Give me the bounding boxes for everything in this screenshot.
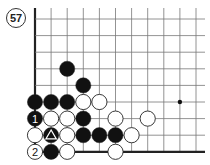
black-stone	[27, 94, 42, 109]
white-stone	[92, 94, 107, 109]
white-stone: 2	[27, 144, 42, 159]
black-stone	[44, 94, 59, 109]
move-number-label: 2	[32, 146, 38, 158]
white-stone	[60, 144, 75, 159]
white-stone	[60, 128, 75, 143]
black-stone	[44, 144, 59, 159]
white-stone	[27, 128, 42, 143]
white-stone	[124, 128, 139, 143]
go-board: 12	[0, 0, 210, 165]
black-stone	[92, 128, 107, 143]
white-stone	[140, 111, 155, 126]
white-stone	[76, 94, 91, 109]
white-stone	[44, 111, 59, 126]
black-stone	[76, 78, 91, 93]
black-stone: 1	[27, 111, 42, 126]
black-stone	[108, 128, 123, 143]
stones-layer: 12	[27, 61, 155, 159]
black-stone	[60, 94, 75, 109]
black-stone	[60, 61, 75, 76]
black-stone	[76, 111, 91, 126]
move-number-label: 1	[32, 113, 38, 125]
white-stone	[60, 111, 75, 126]
black-stone	[76, 128, 91, 143]
star-point	[178, 100, 182, 104]
white-stone	[108, 111, 123, 126]
star-points	[178, 100, 182, 104]
black-stone	[44, 128, 59, 143]
white-stone	[108, 144, 123, 159]
